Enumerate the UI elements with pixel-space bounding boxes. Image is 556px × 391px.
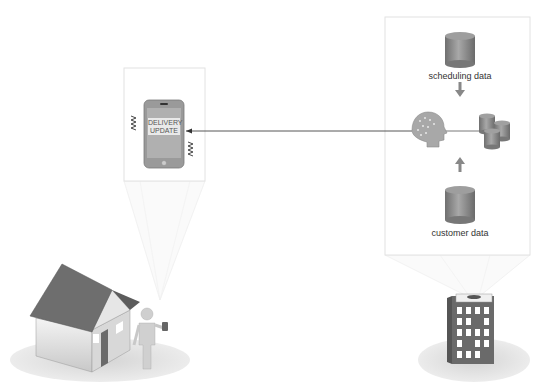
customer-data-label: customer data xyxy=(420,228,500,238)
diagram-canvas xyxy=(0,0,556,391)
office-building-icon xyxy=(447,294,494,364)
phone-screen-text-line1: DELIVERY xyxy=(148,119,180,126)
projection-beam-right xyxy=(385,255,530,300)
database-cylinder-icon-scheduling xyxy=(445,32,475,68)
database-cylinder-icon-customer xyxy=(445,186,475,224)
smartphone-icon xyxy=(144,100,184,168)
projection-beam-left xyxy=(124,181,205,300)
phone-screen-text-line2: UPDATE xyxy=(148,127,180,134)
scheduling-data-label: scheduling data xyxy=(420,71,500,81)
